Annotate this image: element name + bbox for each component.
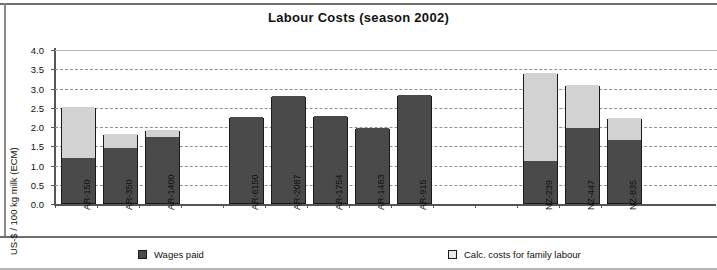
x-axis-category-label: AR-6150 [250,174,260,210]
figure-divider [0,236,717,238]
x-axis-tick-mark [601,204,602,208]
x-axis-category-label: AR-1754 [334,174,344,210]
x-axis-tick-mark [139,204,140,208]
y-axis-tick-label: 1.5 [31,141,44,152]
bar-slot [58,50,100,204]
x-axis-tick-mark [307,204,308,208]
legend-swatch-icon-light [448,250,457,259]
bar-segment-family-labour [146,130,179,137]
y-axis-tick-label: 1.0 [31,160,44,171]
x-axis-category-label: AR-350 [124,179,134,210]
legend-item-wages-paid: Wages paid [138,249,204,260]
x-axis-tick-mark [181,204,182,208]
chart-figure: Labour Costs (season 2002) US-$ / 100 kg… [0,0,717,270]
x-axis-tick-mark [433,204,434,208]
x-axis-tick-mark [265,204,266,208]
y-axis-tick-label: 3.5 [31,64,44,75]
x-axis-tick-mark [391,204,392,208]
x-axis-category-label: NZ-835 [628,180,638,210]
x-axis-tick-mark [223,204,224,208]
y-axis-tick-mark [51,69,55,70]
bar-slot [142,50,184,204]
x-axis-category-label: AR-2087 [292,174,302,210]
x-axis-category-label: AR-150 [82,179,92,210]
x-axis-tick-mark [559,204,560,208]
y-axis-tick-label: 0.0 [31,199,44,210]
bar-slot [268,50,310,204]
bar-slot [520,50,562,204]
x-axis-category-label: AR-1483 [376,174,386,210]
bar-slot [226,50,268,204]
x-axis-tick-mark [475,204,476,208]
bar-slot [352,50,394,204]
y-axis-tick-label: 2.5 [31,102,44,113]
figure-border-top [0,3,717,5]
bar-slot [100,50,142,204]
y-axis-tick-mark [51,204,55,205]
legend-item-family-labour: Calc. costs for family labour [448,249,581,260]
plot-area [55,50,717,204]
x-axis-tick-mark [517,204,518,208]
x-axis-tick-mark [55,204,56,208]
y-axis-tick-mark [51,50,55,51]
legend-label-family-labour: Calc. costs for family labour [464,249,581,260]
y-axis-tick-mark [51,108,55,109]
y-axis-tick-label: 3.0 [31,83,44,94]
x-axis-tick-mark [97,204,98,208]
bar-slot [394,50,436,204]
legend-swatch-icon-dark [138,250,147,259]
bar-slot [562,50,604,204]
y-axis-tick-labels: 0.00.51.01.52.02.53.03.54.0 [0,50,52,204]
bar-segment-family-labour [62,107,95,158]
x-axis-category-label: NZ-239 [544,180,554,210]
y-axis-tick-mark [51,127,55,128]
chart-title: Labour Costs (season 2002) [0,10,717,25]
x-axis-category-label: AR-915 [418,179,428,210]
bar-segment-family-labour [104,134,137,148]
bar-segment-family-labour [608,118,641,140]
bar-segment-family-labour [524,73,557,161]
y-axis-tick-mark [51,89,55,90]
bar-segment-family-labour [566,85,599,127]
bar-slot [310,50,352,204]
x-axis-category-label: AR-1400 [166,174,176,210]
y-axis-tick-label: 4.0 [31,45,44,56]
y-axis-tick-mark [51,166,55,167]
y-axis-tick-label: 0.5 [31,179,44,190]
x-axis-category-label: NZ-447 [586,180,596,210]
y-axis-tick-label: 2.0 [31,122,44,133]
bar-slot [604,50,646,204]
x-axis-tick-mark [349,204,350,208]
y-axis-tick-mark [51,146,55,147]
y-axis-tick-mark [51,185,55,186]
legend-label-wages-paid: Wages paid [154,249,204,260]
